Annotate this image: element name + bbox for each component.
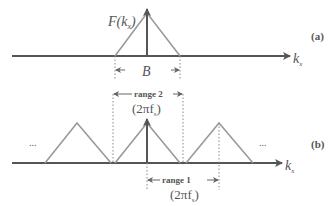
- kx-axis-label-a: kx: [293, 51, 303, 68]
- ellipsis-right: ...: [259, 137, 267, 148]
- range1-formula: (2πfs): [170, 187, 199, 204]
- panel-b: range 2 (2πfs) range 1 (2πfs) ... ... kx…: [12, 89, 325, 204]
- range2-label: range 2: [134, 89, 163, 99]
- function-label: F(kx): [107, 14, 136, 31]
- replica-right: [186, 123, 253, 163]
- range2-formula: (2πfs): [132, 101, 161, 118]
- ellipsis-left: ...: [29, 137, 37, 148]
- panel-b-label: (b): [311, 138, 325, 151]
- bandwidth-label: B: [142, 64, 151, 79]
- diagram-canvas: F(kx) B kx (a) r: [0, 0, 335, 206]
- range1-label: range 1: [162, 175, 191, 185]
- panel-a: F(kx) B kx (a): [12, 9, 324, 80]
- panel-a-label: (a): [311, 30, 324, 43]
- replica-left: [45, 123, 111, 163]
- kx-axis-label-b: kx: [285, 158, 295, 175]
